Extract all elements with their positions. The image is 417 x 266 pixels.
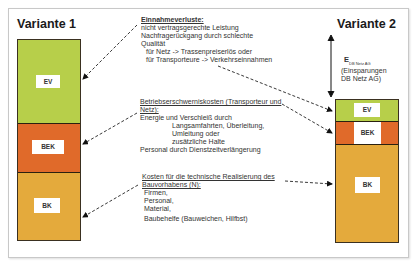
arrow-bek-v1 <box>83 113 137 144</box>
arrow-bk-v2 <box>285 181 332 184</box>
arrow-ev-v2 <box>218 66 332 111</box>
arrow-bk-v1 <box>83 185 138 217</box>
arrow-ev-v1 <box>83 25 137 79</box>
arrow-bek-v2 <box>282 104 332 133</box>
connector-arrows <box>0 0 417 266</box>
savings-double-arrow <box>328 35 334 97</box>
